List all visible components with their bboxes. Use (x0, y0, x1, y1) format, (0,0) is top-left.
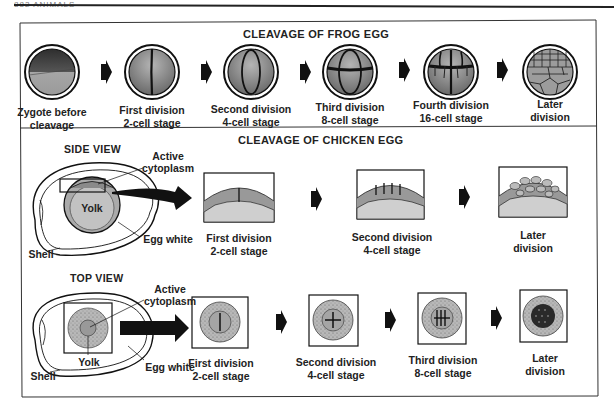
top-stage-label: Second division4-cell stage (288, 356, 384, 382)
frog-stage-label: Third division8-cell stage (303, 101, 397, 127)
frog-later (523, 45, 577, 99)
frog-8cell (323, 45, 377, 99)
side-view-title: SIDE VIEW (64, 143, 121, 155)
frog-stage-label: First division2-cell stage (105, 104, 199, 130)
top-active-cytoplasm-label: Activecytoplasm (140, 283, 200, 307)
side-shell-label: Shell (26, 248, 56, 260)
side-active-cytoplasm-label: Activecytoplasm (138, 150, 198, 174)
side-stage-2cell (204, 173, 274, 222)
frog-16cell (424, 45, 478, 99)
top-stage-later (520, 290, 567, 342)
frog-2cell (125, 45, 179, 99)
top-yolk-label: Yolk (74, 356, 104, 368)
top-stage-label: Laterdivision (498, 352, 592, 378)
side-yolk-label: Yolk (72, 202, 112, 214)
frog-zygote (25, 45, 79, 99)
top-stage-2cell (192, 297, 248, 348)
side-stage-label: First division2-cell stage (192, 232, 286, 258)
frog-stage-label: Second division4-cell stage (204, 103, 298, 129)
top-stage-4cell (309, 295, 358, 346)
top-shell-label: Shell (28, 370, 58, 382)
frog-stage-label: Zygote beforecleavage (5, 106, 99, 132)
top-stage-label: Third division8-cell stage (396, 354, 490, 380)
top-stage-label: First division2-cell stage (178, 357, 264, 383)
frog-stage-label: Laterdivision (503, 98, 597, 124)
side-stage-4cell (357, 170, 424, 219)
chicken-title: CLEAVAGE OF CHICKEN EGG (238, 134, 403, 146)
side-stage-later (499, 167, 567, 217)
top-stage-8cell (418, 293, 466, 344)
side-stage-label: Laterdivision (486, 229, 580, 255)
frog-stage-label: Fourth division16-cell stage (404, 99, 498, 125)
frog-4cell (224, 45, 278, 99)
frog-title: CLEAVAGE OF FROG EGG (243, 28, 389, 40)
side-stage-label: Second division4-cell stage (342, 231, 442, 257)
side-egg-white-label: Egg white (138, 233, 198, 245)
top-view-title: TOP VIEW (70, 272, 123, 284)
